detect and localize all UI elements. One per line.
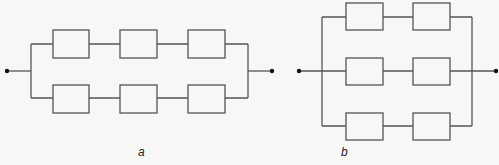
diagram-b [297, 3, 498, 140]
diagram-b-output-terminal [494, 69, 498, 73]
diagram-a-element-1-2 [120, 30, 157, 58]
diagram-a-output-terminal [270, 69, 274, 73]
diagram-a-element-2-2 [120, 85, 157, 113]
diagram-a-element-2-1 [53, 85, 89, 113]
diagram-b-element-1-2 [413, 3, 450, 30]
diagram-a-input-terminal [5, 69, 9, 73]
diagram-canvas [0, 0, 499, 165]
diagram-b-element-3-1 [346, 113, 383, 140]
diagram-b-input-terminal [297, 69, 301, 73]
diagram-a-element-1-1 [53, 30, 89, 58]
diagram-a-label: a [138, 145, 145, 159]
diagram-b-element-1-1 [346, 3, 383, 30]
diagram-a [5, 30, 274, 113]
diagram-b-element-2-1 [346, 58, 383, 85]
diagram-a-element-1-3 [188, 30, 225, 58]
diagram-b-label: b [341, 145, 348, 159]
diagram-b-element-2-2 [413, 58, 450, 85]
diagram-b-element-3-2 [413, 113, 450, 140]
diagram-a-element-2-3 [188, 85, 225, 113]
